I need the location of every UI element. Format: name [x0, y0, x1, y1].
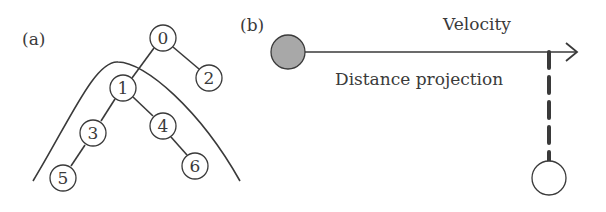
velocity-label: Velocity — [442, 14, 511, 34]
edge-4-6 — [171, 137, 187, 155]
edge-3-5 — [71, 145, 85, 166]
node-1-label: 1 — [118, 78, 129, 98]
tree-edges — [71, 47, 199, 166]
tree-node-1: 1 — [110, 75, 136, 101]
tree-node-4: 4 — [150, 113, 176, 139]
edge-0-1 — [132, 48, 154, 78]
panel-b: (b) Velocity Distance projection — [240, 14, 577, 195]
panel-a: (a) 0 1 2 3 4 — [22, 25, 240, 191]
panel-a-label: (a) — [22, 29, 45, 49]
node-2-label: 2 — [204, 68, 215, 88]
node-5-label: 5 — [58, 168, 69, 188]
edge-1-4 — [133, 97, 153, 116]
tree-node-2: 2 — [196, 65, 222, 91]
diagram-canvas: (a) 0 1 2 3 4 — [0, 0, 606, 212]
node-4-label: 4 — [158, 116, 169, 136]
node-0-label: 0 — [158, 28, 169, 48]
panel-b-label: (b) — [240, 15, 264, 35]
tree-node-5: 5 — [50, 165, 76, 191]
tree-node-6: 6 — [182, 153, 208, 179]
edge-1-3 — [101, 99, 115, 121]
tree-node-0: 0 — [150, 25, 176, 51]
distance-projection-label: Distance projection — [335, 69, 503, 89]
source-object — [271, 35, 305, 69]
edge-0-2 — [173, 47, 199, 69]
node-6-label: 6 — [190, 156, 201, 176]
target-object — [532, 161, 566, 195]
node-3-label: 3 — [88, 123, 99, 143]
tree-node-3: 3 — [80, 120, 106, 146]
